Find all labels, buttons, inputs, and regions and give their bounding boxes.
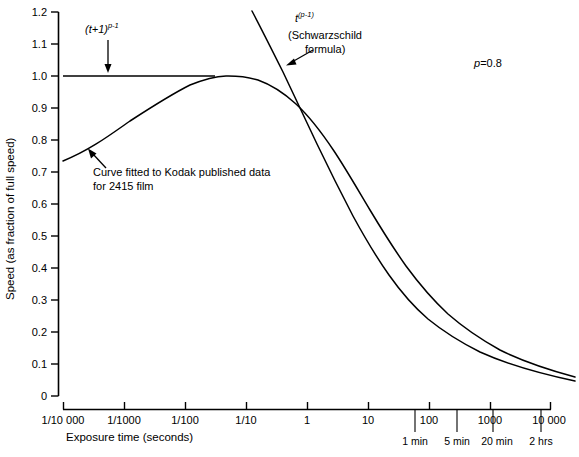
annotation-kodak-formula: (t+1)p-1	[85, 21, 119, 73]
kodak-formula-base: (t+1)	[85, 23, 108, 35]
annotation-kodak-description: Curve fitted to Kodak published data for…	[88, 149, 271, 193]
y-tick-label: 0.7	[32, 166, 47, 178]
y-tick-label: 1.0	[32, 70, 47, 82]
schwarzschild-label-line2: formula)	[305, 43, 345, 55]
x-tick-label: 10 000	[532, 414, 566, 426]
time-marker-label: 2 hrs	[529, 435, 552, 447]
x-tick-label: 1000	[478, 414, 502, 426]
photographic-reciprocity-chart: 1.2 1.1 1.0 0.9 0.8 0.7 0.6 0.5 0.4 0.3 …	[0, 0, 579, 457]
kodak-formula-text: (t+1)p-1	[85, 21, 119, 35]
x-axis-tick-labels: 1/10 000 1/1000 1/100 1/10 1 10 100 1000…	[42, 414, 566, 426]
y-tick-label: 0.5	[32, 230, 47, 242]
kodak-formula-exponent: p-1	[107, 21, 119, 30]
parameter-p-annotation: p=0.8	[473, 57, 502, 69]
schwarzschild-label-line1: (Schwarzschild	[288, 29, 362, 41]
kodak-description-line2: for 2415 film	[93, 180, 154, 192]
time-marker-labels: 1 min 5 min 20 min 2 hrs	[402, 435, 553, 447]
kodak-formula-arrow-head	[105, 64, 112, 73]
x-tick-label: 1/10	[235, 414, 256, 426]
curve-kodak-fitted	[63, 76, 575, 377]
y-axis-ticks	[51, 12, 59, 396]
y-axis-tick-labels: 1.2 1.1 1.0 0.9 0.8 0.7 0.6 0.5 0.4 0.3 …	[32, 6, 47, 402]
time-marker-label: 1 min	[402, 435, 428, 447]
schwarzschild-arrow-head	[286, 59, 297, 66]
y-tick-label: 0.8	[32, 134, 47, 146]
y-tick-label: 0.6	[32, 198, 47, 210]
x-tick-label: 100	[420, 414, 438, 426]
y-tick-label: 0.3	[32, 294, 47, 306]
x-tick-label: 1	[304, 414, 310, 426]
y-tick-label: 1.1	[32, 38, 47, 50]
schwarzschild-formula-exponent: (p-1)	[298, 10, 314, 19]
y-tick-label: 0.2	[32, 326, 47, 338]
x-tick-label: 1/1000	[107, 414, 141, 426]
y-tick-label: 0.4	[32, 262, 47, 274]
x-axis-ticks	[64, 402, 551, 410]
y-tick-label: 0	[41, 390, 47, 402]
parameter-p-symbol: p	[473, 57, 480, 69]
curve-schwarzschild	[252, 11, 575, 381]
x-tick-label: 1/10 000	[42, 414, 85, 426]
annotation-schwarzschild: t(p-1) (Schwarzschild formula)	[286, 10, 362, 66]
time-marker-label: 5 min	[444, 435, 470, 447]
y-tick-label: 1.2	[32, 6, 47, 18]
schwarzschild-formula-text: t(p-1)	[295, 10, 314, 24]
x-tick-label: 1/100	[171, 414, 199, 426]
parameter-p-value: =0.8	[480, 57, 502, 69]
chart-svg: 1.2 1.1 1.0 0.9 0.8 0.7 0.6 0.5 0.4 0.3 …	[0, 0, 579, 457]
y-axis-title: Speed (as fraction of full speed)	[4, 137, 16, 300]
x-axis-title: Exposure time (seconds)	[66, 431, 193, 443]
y-tick-label: 0.9	[32, 102, 47, 114]
y-tick-label: 0.1	[32, 358, 47, 370]
x-tick-label: 10	[362, 414, 374, 426]
kodak-description-line1: Curve fitted to Kodak published data	[93, 166, 271, 178]
time-marker-label: 20 min	[481, 435, 513, 447]
schwarzschild-arrow-shaft	[292, 50, 313, 62]
